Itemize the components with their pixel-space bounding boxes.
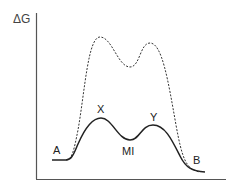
y-axis-label: ΔG (13, 13, 30, 25)
label-intermediate-mi: MI (122, 146, 134, 157)
label-peak-y: Y (150, 112, 157, 123)
label-end-b: B (193, 155, 200, 166)
label-peak-x: X (97, 104, 104, 115)
label-start-a: A (53, 145, 60, 156)
